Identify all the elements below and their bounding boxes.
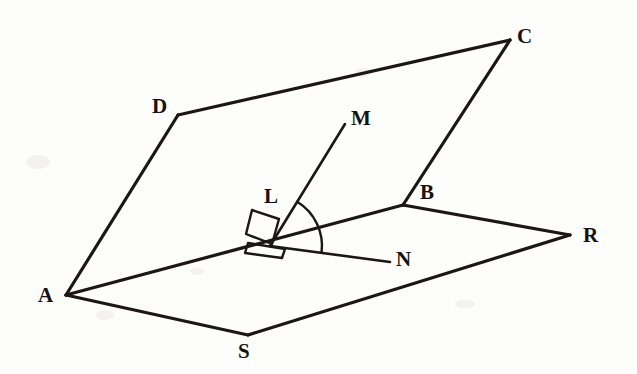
ray-O-M xyxy=(270,124,345,246)
vertex-label-C: C xyxy=(517,26,532,47)
vertex-label-A: A xyxy=(38,285,53,306)
edge-A-B xyxy=(66,205,403,295)
right-angle-marker-layer xyxy=(245,210,285,258)
ray-O-N xyxy=(270,246,390,262)
vertex-label-R: R xyxy=(583,225,598,246)
vertex-label-B: B xyxy=(420,182,434,203)
angle-arc-layer xyxy=(297,202,322,253)
vertex-label-S: S xyxy=(238,341,250,362)
edge-B-R xyxy=(403,205,570,235)
vertex-label-M: M xyxy=(351,108,371,129)
vertex-label-L: L xyxy=(264,186,278,207)
geometry-diagram: C D M L B R N A S xyxy=(0,0,637,374)
vertex-label-D: D xyxy=(152,96,167,117)
angle-M-O-N xyxy=(297,202,322,253)
vertex-label-N: N xyxy=(396,249,411,270)
edge-A-S xyxy=(66,295,248,335)
geometry-canvas xyxy=(0,0,637,374)
right-angle-marker-upper xyxy=(246,210,279,244)
edge-D-C xyxy=(178,40,510,115)
edge-layer xyxy=(66,40,570,335)
